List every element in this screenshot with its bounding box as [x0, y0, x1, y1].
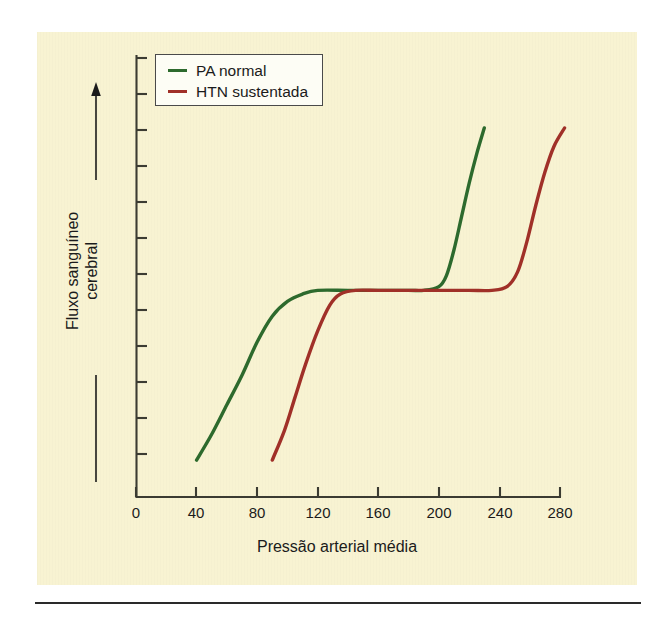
y-axis-title-line2: cerebral [83, 242, 100, 300]
series-line-htn-sustentada [272, 128, 564, 460]
x-tick-label: 80 [249, 504, 266, 521]
x-tick-label: 40 [188, 504, 205, 521]
y-axis-title-line1: Fluxo sanguíneo [64, 212, 81, 330]
x-tick-label: 0 [132, 504, 140, 521]
chart-plot-area [37, 32, 637, 585]
legend-label: PA normal [196, 63, 266, 79]
y-axis-ticks [136, 58, 147, 454]
x-tick-label: 240 [487, 504, 512, 521]
x-axis-title: Pressão arterial média [37, 538, 637, 556]
legend-item-pa-normal: PA normal [168, 60, 322, 81]
legend-color-swatch-red [168, 90, 187, 93]
x-tick-label: 280 [547, 504, 572, 521]
figure-panel: 0 40 80 120 160 200 240 280 Pressão arte… [37, 32, 637, 585]
chart-legend: PA normal HTN sustentada [155, 54, 323, 106]
y-axis-title: Fluxo sanguíneo cerebral [64, 161, 102, 381]
x-tick-label: 200 [426, 504, 451, 521]
x-tick-label: 120 [305, 504, 330, 521]
bottom-horizontal-rule [35, 602, 641, 604]
x-axis-ticks [136, 487, 560, 497]
legend-item-htn-sustentada: HTN sustentada [168, 81, 322, 102]
legend-color-swatch-green [168, 69, 187, 72]
x-tick-label: 160 [365, 504, 390, 521]
legend-label: HTN sustentada [196, 84, 308, 100]
